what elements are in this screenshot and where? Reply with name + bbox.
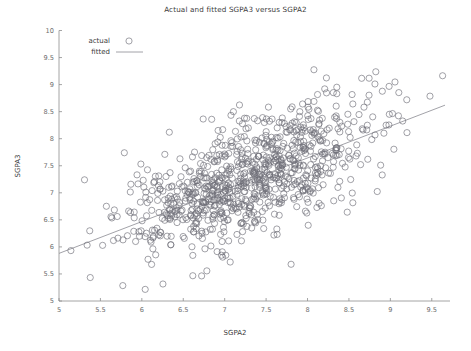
scatter-point	[162, 151, 168, 157]
y-tick-label: 7.5	[44, 162, 55, 170]
scatter-point	[369, 136, 375, 142]
scatter-point	[440, 73, 446, 79]
scatter-point	[133, 238, 139, 244]
scatter-point	[351, 119, 357, 125]
scatter-point	[337, 119, 343, 125]
scatter-point	[149, 188, 155, 194]
scatter-point	[143, 213, 149, 219]
scatter-point	[345, 111, 351, 117]
scatter-point	[100, 242, 106, 248]
scatter-point	[321, 131, 327, 137]
scatter-point	[337, 178, 343, 184]
scatter-point	[180, 233, 186, 239]
scatter-point	[174, 188, 180, 194]
scatter-point	[308, 162, 314, 168]
axes	[59, 31, 450, 302]
chart-figure: Actual and fitted SGPA3 versus SGPA2 55.…	[0, 0, 471, 351]
scatter-point	[229, 175, 235, 181]
scatter-point	[281, 190, 287, 196]
scatter-point	[215, 127, 221, 133]
scatter-point	[210, 147, 216, 153]
scatter-point	[333, 103, 339, 109]
scatter-point	[348, 176, 354, 182]
scatter-point	[211, 220, 217, 226]
scatter-point	[257, 199, 263, 205]
scatter-point	[379, 88, 385, 94]
scatter-point	[305, 199, 311, 205]
scatter-point	[168, 242, 174, 248]
scatter-point	[304, 196, 310, 202]
scatter-point	[190, 273, 196, 279]
scatter-point	[315, 185, 321, 191]
x-tick-label: 5.5	[95, 306, 106, 314]
scatter-point	[404, 97, 410, 103]
scatter-point	[238, 238, 244, 244]
scatter-point	[305, 104, 311, 110]
scatter-point	[253, 147, 259, 153]
scatter-point	[232, 128, 238, 134]
scatter-point	[334, 84, 340, 90]
chart-legend: actualfitted	[88, 37, 143, 56]
scatter-point	[111, 207, 117, 213]
scatter-point	[182, 165, 188, 171]
scatter-point	[378, 162, 384, 168]
scatter-point	[263, 129, 269, 135]
scatter-point	[190, 252, 196, 258]
scatter-point	[323, 75, 329, 81]
scatter-point	[242, 170, 248, 176]
scatter-point	[392, 79, 398, 85]
scatter-point	[364, 99, 370, 105]
scatter-point	[427, 93, 433, 99]
scatter-point	[350, 200, 356, 206]
scatter-point	[311, 67, 317, 73]
scatter-point	[138, 161, 144, 167]
scatter-point	[396, 90, 402, 96]
scatter-point	[350, 101, 356, 107]
scatter-point	[173, 194, 179, 200]
scatter-point	[330, 164, 336, 170]
scatter-point	[219, 238, 225, 244]
scatter-point	[200, 116, 206, 122]
x-tick-label: 8.5	[344, 306, 355, 314]
scatter-point	[239, 229, 245, 235]
scatter-point	[338, 195, 344, 201]
scatter-point	[235, 209, 241, 215]
scatter-point	[226, 238, 232, 244]
scatter-point	[261, 225, 267, 231]
y-tick-label: 9.5	[44, 54, 55, 62]
scatter-point	[404, 130, 410, 136]
scatter-point	[346, 148, 352, 154]
scatter-point	[288, 106, 294, 112]
scatter-point	[81, 177, 87, 183]
scatter-point	[311, 98, 317, 104]
scatter-point	[289, 104, 295, 110]
scatter-point	[168, 233, 174, 239]
scatter-point	[128, 181, 134, 187]
scatter-point	[347, 156, 353, 162]
scatter-point	[209, 116, 215, 122]
scatter-point	[372, 81, 378, 87]
scatter-point	[217, 134, 223, 140]
y-tick-label: 10	[46, 27, 54, 35]
x-axis-title: SGPA2	[224, 329, 247, 337]
y-tick-label: 7	[50, 189, 54, 197]
scatter-point	[326, 125, 332, 131]
scatter-point	[386, 83, 392, 89]
x-tick-label: 7.5	[261, 306, 272, 314]
scatter-point	[323, 165, 329, 171]
scatter-point	[150, 246, 156, 252]
scatter-point	[202, 246, 208, 252]
scatter-point	[245, 125, 251, 131]
scatter-point	[288, 261, 294, 267]
scatter-point	[330, 159, 336, 165]
scatter-point	[228, 138, 234, 144]
scatter-point	[153, 252, 159, 258]
plot-canvas: 55.566.577.588.599.555.566.577.588.599.5…	[0, 0, 471, 351]
scatter-points	[68, 67, 446, 293]
x-tick-label: 7	[223, 306, 227, 314]
scatter-point	[211, 212, 217, 218]
scatter-point	[279, 119, 285, 125]
scatter-point	[135, 181, 141, 187]
scatter-point	[114, 213, 120, 219]
y-tick-label: 6.5	[44, 216, 55, 224]
